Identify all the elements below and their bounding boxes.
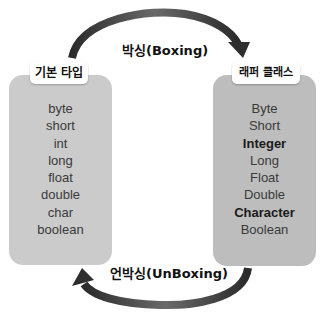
primitive-type-list: byte short int long float double char bo… <box>9 100 112 238</box>
primitive-type-title: 기본 타입 <box>30 62 88 84</box>
list-item-highlighted: Integer <box>213 135 316 152</box>
wrapper-class-list: Byte Short Integer Long Float Double Cha… <box>213 100 316 238</box>
list-item: Short <box>213 117 316 134</box>
wrapper-class-title: 래퍼 클래스 <box>232 62 300 84</box>
list-item: byte <box>9 100 112 117</box>
list-item: Byte <box>213 100 316 117</box>
unboxing-label: 언박싱(UnBoxing) <box>110 263 228 282</box>
list-item: long <box>9 152 112 169</box>
list-item: boolean <box>9 221 112 238</box>
list-item: int <box>9 135 112 152</box>
list-item-highlighted: Character <box>213 204 316 221</box>
list-item: short <box>9 117 112 134</box>
list-item: float <box>9 169 112 186</box>
boxing-label: 박싱(Boxing) <box>122 40 208 59</box>
list-item: double <box>9 186 112 203</box>
list-item: Long <box>213 152 316 169</box>
list-item: Double <box>213 186 316 203</box>
list-item: Float <box>213 169 316 186</box>
list-item: Boolean <box>213 221 316 238</box>
list-item: char <box>9 204 112 221</box>
